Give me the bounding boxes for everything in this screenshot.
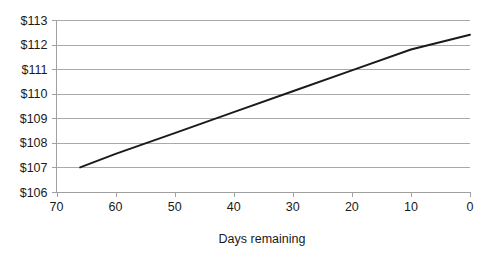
y-axis-tick-label: $109 (20, 112, 48, 126)
y-axis-tick-labels: $106$107$108$109$110$111$112$113 (20, 14, 48, 200)
y-axis-tick-label: $110 (21, 87, 48, 101)
y-axis-tick-label: $108 (20, 136, 48, 150)
y-axis-tick-marks (52, 21, 57, 193)
x-axis-tick-label: 40 (227, 200, 241, 214)
price-series-line (80, 35, 470, 168)
x-axis-tick-label: 10 (404, 200, 418, 214)
x-axis-title: Days remaining (219, 232, 306, 246)
y-axis-tick-label: $113 (21, 14, 48, 28)
y-axis-tick-label: $111 (22, 63, 48, 77)
x-axis-tick-label: 0 (467, 200, 474, 214)
x-axis-tick-label: 60 (109, 200, 123, 214)
y-axis-tick-label: $112 (21, 38, 48, 52)
x-axis-tick-label: 50 (168, 200, 182, 214)
x-axis-tick-label: 20 (345, 200, 359, 214)
x-axis-tick-labels: 706050403020100 (50, 200, 474, 214)
y-axis-tick-label: $107 (20, 161, 48, 175)
chart-canvas: $106$107$108$109$110$111$112$113 7060504… (0, 0, 500, 261)
x-axis-tick-label: 70 (50, 200, 64, 214)
y-axis-tick-label: $106 (20, 186, 48, 200)
line-chart: $106$107$108$109$110$111$112$113 7060504… (0, 0, 500, 261)
gridlines (57, 21, 471, 193)
x-axis-tick-label: 30 (286, 200, 300, 214)
